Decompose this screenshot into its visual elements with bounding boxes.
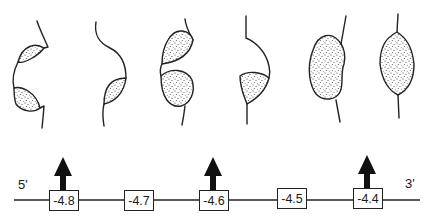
position-label: -4.7: [128, 194, 150, 208]
structure-2: [96, 22, 126, 126]
three-prime-label: 3': [405, 176, 415, 191]
arrow-icon: [204, 157, 222, 190]
position-box-4: -4.5: [277, 188, 307, 209]
marker-arrows: [54, 155, 376, 190]
position-box-2: -4.7: [124, 190, 154, 211]
structure-1: [13, 21, 48, 128]
structure-6: [380, 14, 414, 118]
position-box-1: -4.8: [49, 190, 79, 211]
structure-5: [309, 16, 346, 122]
strand-figure: 5' 3' -4.8 -4.7 -4.6 -4.5 -4.4: [0, 0, 434, 221]
arrow-icon: [358, 155, 376, 189]
position-label: -4.6: [203, 194, 225, 208]
position-label: -4.8: [53, 194, 75, 208]
arrow-icon: [54, 157, 72, 190]
position-label: -4.4: [357, 192, 379, 206]
structure-3: [160, 19, 193, 125]
structure-4: [240, 16, 270, 124]
five-prime-label: 5': [18, 177, 28, 192]
position-box-3: -4.6: [199, 190, 229, 211]
position-box-5: -4.4: [353, 188, 383, 209]
position-label: -4.5: [281, 192, 303, 206]
